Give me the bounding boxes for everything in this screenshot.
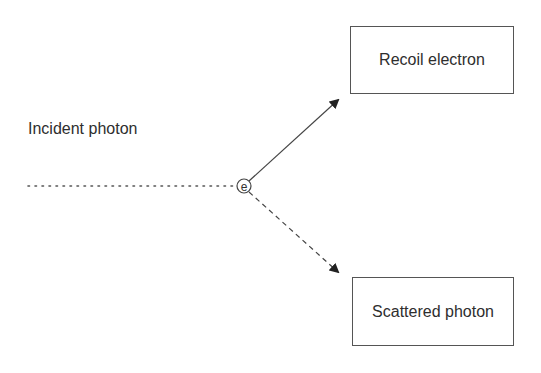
electron-node: e	[237, 179, 251, 194]
recoil-electron-label: Recoil electron	[379, 51, 485, 69]
recoil-electron-box: Recoil electron	[350, 26, 514, 94]
scattered-photon-arrow	[249, 192, 338, 272]
scattered-photon-box: Scattered photon	[352, 277, 514, 346]
scattered-photon-label: Scattered photon	[372, 303, 494, 321]
electron-symbol: e	[241, 180, 248, 194]
recoil-electron-arrow	[249, 100, 338, 181]
incident-photon-label: Incident photon	[28, 120, 137, 138]
